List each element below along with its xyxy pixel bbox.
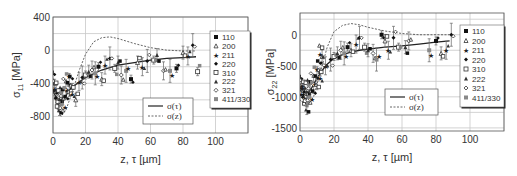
legend-label: 220 [222,60,236,69]
legend-label: 220 [472,56,486,65]
legend-label: 110 [222,33,235,42]
y-tick-label: 0 [44,45,50,56]
x-tick-label: 60 [145,136,157,147]
svg-text:★: ★ [125,65,131,72]
legend-label: 110 [472,27,485,36]
legend-label: 211 [222,51,235,60]
legend-label: σ(z) [409,102,424,112]
chart-sigma11: 0204060801004000-400-800z, τ [µm]σ11 [MP… [0,0,258,176]
x-tick-label: 60 [396,134,408,145]
chart-sigma22: 0204060801000-500-1000-1500z, τ [µm]σ22 … [258,0,517,176]
legend-label: σ(τ) [409,92,423,102]
chart-sigma22-canvas: 0204060801000-500-1000-1500z, τ [µm]σ22 … [258,0,517,176]
y-tick-label: 0 [291,30,297,41]
legend-label: 411/330 [472,94,501,103]
x-axis-label: z, τ [µm] [120,153,161,165]
legend-label: σ(z) [167,111,182,121]
y-axis-label: σ11 [MPa] [10,52,24,98]
legend-label: σ(τ) [167,101,181,111]
y-tick-label: 400 [33,12,50,23]
y-tick-label: -1500 [271,123,297,134]
svg-text:★: ★ [185,53,191,60]
x-tick-label: 40 [362,134,374,145]
x-tick-label: 20 [80,136,92,147]
y-tick-label: -800 [30,111,50,122]
legend-item: ★211 [463,46,485,55]
chart-sigma11-canvas: 0204060801004000-400-800z, τ [µm]σ11 [MP… [0,0,258,176]
legend-label: 222 [472,75,486,84]
y-tick-label: -500 [277,61,297,72]
x-tick-label: 100 [462,134,479,145]
marker-legend: 110200★211220310222321411/330 [460,25,506,109]
svg-text:★: ★ [428,52,434,59]
legend-item: ★211 [213,51,235,60]
line-legend: σ(τ)σ(z) [143,98,193,124]
x-tick-label: 80 [177,136,189,147]
svg-text:★: ★ [213,52,219,59]
legend-label: 222 [222,77,236,86]
x-axis-ticks: 020406080100 [297,134,479,145]
svg-text:★: ★ [463,47,469,54]
x-tick-label: 0 [50,136,56,147]
x-axis-ticks: 020406080100 [50,136,224,147]
y-tick-label: -400 [30,78,50,89]
legend-label: 200 [472,37,486,46]
x-tick-label: 40 [112,136,124,147]
legend-label: 321 [472,84,486,93]
y-axis-label: σ22 [MPa] [264,49,278,95]
x-tick-label: 20 [328,134,340,145]
x-tick-label: 100 [207,136,224,147]
svg-text:★: ★ [443,47,449,54]
svg-text:★: ★ [376,53,382,60]
x-tick-label: 80 [430,134,442,145]
marker-legend: 110200★211220310222321411/330 [210,31,252,110]
legend-label: 411/330 [222,95,251,104]
legend-label: 200 [222,42,236,51]
svg-text:★: ★ [102,62,108,69]
svg-text:★: ★ [343,53,349,60]
x-axis-label: z, τ [µm] [372,151,413,163]
y-axis-ticks: 4000-400-800 [30,12,50,122]
legend-label: 211 [472,46,485,55]
legend-label: 310 [222,69,236,78]
legend-label: 310 [472,65,486,74]
svg-text:★: ★ [309,96,315,103]
svg-text:★: ★ [169,72,175,79]
legend-label: 321 [222,86,236,95]
svg-text:★: ★ [62,104,68,111]
x-tick-label: 0 [297,134,303,145]
line-legend: σ(τ)σ(z) [385,89,438,115]
svg-text:★: ★ [94,73,100,80]
svg-text:★: ★ [353,41,359,48]
